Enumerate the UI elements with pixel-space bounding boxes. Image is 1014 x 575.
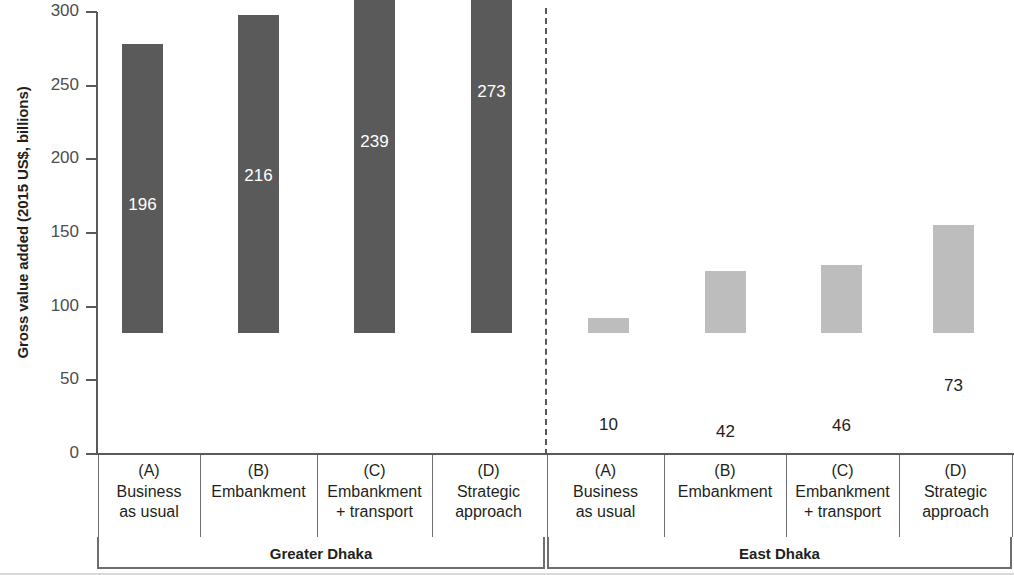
category-label: (D)Strategicapproach [432, 461, 545, 523]
category-name-line: Strategic [899, 482, 1012, 503]
category-name-line: as usual [547, 502, 664, 523]
bar-chart: Gross value added (2015 US$, billions) 3… [0, 0, 1014, 575]
category-code: (A) [547, 461, 664, 482]
group-band-label: East Dhaka [547, 545, 1012, 562]
bar [354, 0, 395, 333]
category-name-line: Embankment [664, 482, 786, 503]
group-band-label: Greater Dhaka [97, 545, 545, 562]
bar [588, 318, 629, 333]
category-name-line: Embankment [317, 482, 432, 503]
category-code: (C) [317, 461, 432, 482]
bar [471, 0, 512, 333]
category-code: (B) [200, 461, 317, 482]
category-code: (B) [664, 461, 786, 482]
category-name-line: Business [547, 482, 664, 503]
category-name-line: Embankment [786, 482, 899, 503]
category-name-line: as usual [98, 502, 200, 523]
bar-value-label: 216 [219, 166, 299, 186]
category-label: (B)Embankment [200, 461, 317, 502]
bar-value-label: 273 [452, 82, 532, 102]
category-name-line: approach [432, 502, 545, 523]
category-code: (D) [899, 461, 1012, 482]
category-label: (C)Embankment+ transport [317, 461, 432, 523]
category-name-line: + transport [786, 502, 899, 523]
bar [933, 225, 974, 333]
category-label: (D)Strategicapproach [899, 461, 1012, 523]
category-code: (D) [432, 461, 545, 482]
bar-value-label: 42 [686, 422, 766, 442]
bars-layer [0, 0, 1014, 454]
category-code: (C) [786, 461, 899, 482]
bar-value-label: 46 [802, 416, 882, 436]
bar [821, 265, 862, 333]
bar [122, 44, 163, 333]
category-label: (B)Embankment [664, 461, 786, 502]
category-name-line: Strategic [432, 482, 545, 503]
bar [705, 271, 746, 333]
bar-value-label: 239 [335, 132, 415, 152]
bar-value-label: 196 [103, 195, 183, 215]
category-name-line: Business [98, 482, 200, 503]
category-name-line: + transport [317, 502, 432, 523]
bar-value-label: 10 [569, 415, 649, 435]
category-separator [1012, 455, 1013, 537]
category-code: (A) [98, 461, 200, 482]
bar-value-label: 73 [914, 376, 994, 396]
category-name-line: approach [899, 502, 1012, 523]
category-name-line: Embankment [200, 482, 317, 503]
category-label: (A)Businessas usual [547, 461, 664, 523]
category-label: (C)Embankment+ transport [786, 461, 899, 523]
category-label: (A)Businessas usual [98, 461, 200, 523]
group-divider-dashed-line [545, 8, 547, 455]
